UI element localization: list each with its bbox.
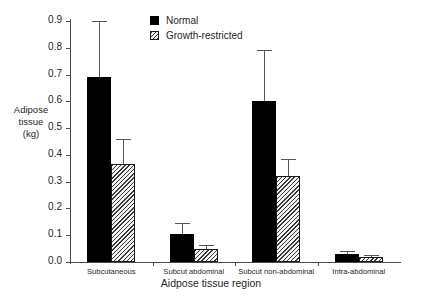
bar-normal xyxy=(335,254,359,262)
bar-growth-restricted xyxy=(111,164,135,262)
x-axis-category-label: Subcutaneous xyxy=(70,267,153,276)
y-axis-title-line-1: Adipose xyxy=(2,104,60,116)
x-axis-category-label: Subcut abdominal xyxy=(153,267,236,276)
bar-growth-restricted xyxy=(276,176,300,262)
chart-legend: Normal Growth-restricted xyxy=(150,14,243,44)
bar-growth-restricted xyxy=(194,249,218,262)
error-bar-stem xyxy=(264,50,265,101)
legend-label-growth-restricted: Growth-restricted xyxy=(166,30,243,41)
y-axis-tick xyxy=(66,262,70,263)
y-axis-tick-label: 0.3 xyxy=(32,175,62,186)
plot-area xyxy=(70,21,400,262)
bar-normal xyxy=(252,101,276,262)
x-axis-category-label: Subcut non-abdominal xyxy=(235,267,318,276)
x-axis-title: Aidpose tissue region xyxy=(0,277,422,289)
error-bar-stem xyxy=(123,139,124,164)
y-axis-tick-label: 0.0 xyxy=(32,255,62,266)
bar-normal xyxy=(170,234,194,262)
legend-swatch-normal-icon xyxy=(150,16,159,25)
y-axis-tick-label: 0.7 xyxy=(32,68,62,79)
x-axis-tick xyxy=(235,262,236,266)
y-axis-tick-label: 0.2 xyxy=(32,201,62,212)
y-axis-tick-label: 0.5 xyxy=(32,121,62,132)
legend-swatch-growth-restricted-icon xyxy=(150,31,159,40)
y-axis-tick-label: 0.8 xyxy=(32,41,62,52)
y-axis-tick-label: 0.9 xyxy=(32,14,62,25)
error-bar-cap xyxy=(199,245,214,246)
bar-normal xyxy=(87,77,111,262)
error-bar-cap xyxy=(116,139,131,140)
bar-growth-restricted xyxy=(359,257,383,262)
legend-item-growth-restricted: Growth-restricted xyxy=(150,29,243,42)
error-bar-cap xyxy=(257,50,272,51)
error-bar-stem xyxy=(99,21,100,77)
bar-chart-figure: Adipose tissue (kg) Aidpose tissue regio… xyxy=(0,0,422,300)
x-axis-tick xyxy=(318,262,319,266)
error-bar-cap xyxy=(281,159,296,160)
x-axis-category-label: Intra-abdominal xyxy=(318,267,401,276)
error-bar-cap xyxy=(92,21,107,22)
legend-item-normal: Normal xyxy=(150,14,243,27)
y-axis-tick-label: 0.1 xyxy=(32,228,62,239)
error-bar-stem xyxy=(182,223,183,234)
error-bar-cap xyxy=(340,251,355,252)
x-axis-tick xyxy=(153,262,154,266)
legend-label-normal: Normal xyxy=(166,15,198,26)
error-bar-stem xyxy=(288,159,289,176)
error-bar-cap xyxy=(175,223,190,224)
error-bar-cap xyxy=(364,255,379,256)
y-axis-tick-label: 0.4 xyxy=(32,148,62,159)
y-axis-tick-label: 0.6 xyxy=(32,94,62,105)
